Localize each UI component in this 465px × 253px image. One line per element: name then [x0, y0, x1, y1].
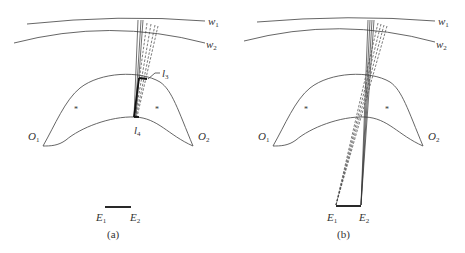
- panel-a: w1 w2 * * l3 l4 O1 O2 E1 E2 (: [14, 15, 219, 241]
- label-l3: l3: [162, 67, 169, 81]
- marker-left: *: [74, 105, 78, 114]
- lens-outer-surface: [273, 74, 423, 146]
- panel-b: w1 w2 * * O1 O2 E1 E2 (b): [244, 15, 449, 241]
- lens-inner-surface: [43, 117, 193, 146]
- lens-outer-surface: [43, 74, 193, 146]
- label-O2: O2: [198, 130, 210, 144]
- wavefront-w2: [14, 31, 205, 44]
- label-O2: O2: [428, 130, 440, 144]
- label-w2: w2: [436, 38, 447, 52]
- marker-left: *: [304, 105, 308, 114]
- marker-right: *: [385, 105, 389, 114]
- marker-right: *: [155, 105, 159, 114]
- label-O1: O1: [28, 130, 40, 144]
- label-E1: E1: [326, 211, 338, 225]
- lens-inner-surface: [273, 117, 423, 146]
- label-l4: l4: [134, 124, 141, 138]
- optics-diagram: w1 w2 * * l3 l4 O1 O2 E1 E2 (: [0, 0, 465, 253]
- label-w1: w1: [438, 15, 449, 29]
- wavefront-w1: [257, 18, 435, 22]
- label-E2: E2: [129, 211, 141, 225]
- wavefront-w2: [244, 29, 435, 42]
- label-E1: E1: [95, 211, 107, 225]
- ray-bundle-b: [336, 20, 387, 205]
- label-w2: w2: [206, 38, 217, 52]
- caption-b: (b): [337, 228, 350, 241]
- wavefront-w1: [27, 18, 205, 24]
- caption-a: (a): [107, 228, 120, 241]
- l3-leader: [148, 73, 160, 79]
- ray-bundle-a: [134, 20, 158, 117]
- label-E2: E2: [358, 211, 370, 225]
- label-O1: O1: [258, 130, 270, 144]
- label-w1: w1: [208, 15, 219, 29]
